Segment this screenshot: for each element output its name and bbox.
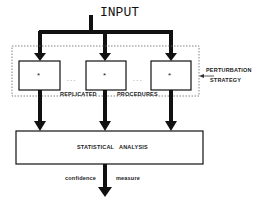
flow-diagram [0,0,253,203]
arrowheads-into-analysis [34,121,177,131]
input-connector [39,15,173,54]
output-arrowhead [98,187,112,197]
confidence-label: confidence [65,176,96,182]
replicated-label: REPLICATED [60,92,97,98]
procedure-marker-1: * [37,72,40,80]
procedures-label: PROCEDURES [117,92,158,98]
procedure-marker-3: * [168,72,171,80]
arrowheads-into-procedures [34,53,177,61]
input-label: INPUT [100,6,139,19]
statistical-analysis-label: STATISTICAL ANALYSIS [77,145,148,151]
ellipsis-2: . . . [133,76,141,82]
ellipsis-1: . . . [67,76,75,82]
strategy-label: STRATEGY [210,78,241,84]
perturbation-pointer-arrowhead [199,74,204,78]
perturbation-label: PERTURBATION [206,68,252,74]
measure-label: measure [116,176,140,182]
procedure-marker-2: * [103,72,106,80]
